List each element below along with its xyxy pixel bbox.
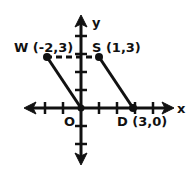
point-o (78, 105, 85, 112)
point-d (129, 104, 137, 112)
label-w: W (-2,3) (14, 40, 73, 55)
label-x-axis: x (177, 101, 186, 116)
label-s: S (1,3) (92, 40, 141, 55)
coordinate-plane: W (-2,3) S (1,3) O D (3,0) x y (0, 0, 196, 177)
label-y-axis: y (92, 15, 101, 30)
label-d: D (3,0) (117, 114, 167, 129)
segment-sd (99, 57, 133, 108)
label-o: O (64, 114, 75, 129)
segment-wo (47, 57, 81, 108)
